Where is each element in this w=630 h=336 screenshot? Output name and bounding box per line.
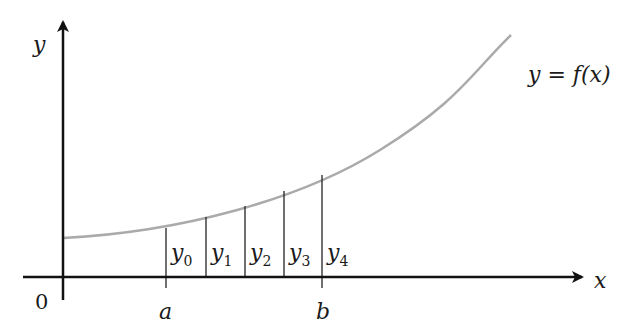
origin-label: 0 xyxy=(35,290,48,314)
x-axis-label: x xyxy=(594,268,607,293)
svg-text:y4: y4 xyxy=(326,240,348,269)
svg-text:y3: y3 xyxy=(288,240,310,269)
trapezoid-diagram: y x 0 a b y = f(x) y0 y1 y2 y3 y4 xyxy=(0,0,630,336)
interval-start-label: a xyxy=(159,299,172,324)
y-axis-label: y xyxy=(32,32,46,57)
curve-label: y = f(x) xyxy=(527,62,611,87)
function-curve xyxy=(63,35,511,238)
svg-text:y1: y1 xyxy=(210,240,232,269)
interval-end-label: b xyxy=(316,299,330,324)
svg-text:y0: y0 xyxy=(170,240,192,269)
svg-text:y2: y2 xyxy=(249,240,271,269)
ordinate-lines xyxy=(166,175,322,288)
